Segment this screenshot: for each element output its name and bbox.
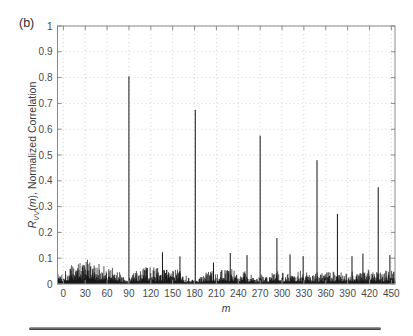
- x-tick-label: 150: [164, 288, 181, 299]
- x-tick-label: 60: [102, 288, 114, 299]
- panel-label: (b): [19, 16, 34, 30]
- x-tick-label: 30: [80, 288, 92, 299]
- axis-layer: 0306090120150180210240270300330360390420…: [39, 21, 401, 300]
- x-tick-label: 270: [252, 288, 269, 299]
- y-tick-label: 0.5: [39, 150, 53, 161]
- noise-floor-series: [58, 260, 395, 284]
- y-tick-label: 0: [47, 279, 53, 290]
- y-tick-label: 0.2: [39, 227, 53, 238]
- x-tick-label: 0: [61, 288, 67, 299]
- correlation-chart: (b) 030609012015018021024027030033036039…: [0, 0, 413, 336]
- y-tick-label: 0.7: [39, 98, 53, 109]
- y-tick-label: 0.4: [39, 175, 53, 186]
- x-tick-label: 330: [296, 288, 313, 299]
- y-tick-label: 0.9: [39, 46, 53, 57]
- y-tick-label: 0.6: [39, 124, 53, 135]
- grid-layer: [58, 26, 396, 284]
- x-tick-label: 210: [208, 288, 225, 299]
- x-tick-label: 180: [186, 288, 203, 299]
- x-tick-label: 390: [339, 288, 356, 299]
- x-tick-label: 90: [123, 288, 135, 299]
- x-tick-label: 420: [361, 288, 378, 299]
- x-tick-label: 450: [383, 288, 400, 299]
- data-layer: [58, 76, 395, 284]
- y-tick-label: 1: [47, 21, 53, 32]
- x-tick-label: 120: [142, 288, 159, 299]
- x-tick-label: 360: [317, 288, 334, 299]
- x-tick-label: 300: [274, 288, 291, 299]
- x-tick-label: 240: [230, 288, 247, 299]
- y-tick-label: 0.1: [39, 253, 53, 264]
- y-tick-label: 0.3: [39, 201, 53, 212]
- y-tick-label: 0.8: [39, 72, 53, 83]
- bottom-separator-bar: [29, 327, 381, 330]
- x-axis-label: m: [222, 302, 231, 314]
